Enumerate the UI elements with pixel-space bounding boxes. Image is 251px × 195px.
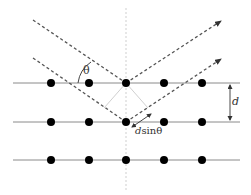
atom <box>122 79 130 87</box>
bragg-diagram <box>0 0 251 195</box>
atom <box>47 79 55 87</box>
d-spacing-label: d <box>232 95 239 108</box>
atom <box>122 156 130 164</box>
atom <box>122 118 130 126</box>
construction-line-right <box>126 83 148 108</box>
incident-ray-lower <box>33 58 126 122</box>
atom <box>160 79 168 87</box>
atom <box>47 118 55 126</box>
theta-label: θ <box>83 64 90 77</box>
atom <box>198 118 206 126</box>
dsintheta-label: dsinθ <box>135 125 162 136</box>
atom <box>198 79 206 87</box>
atom <box>85 79 93 87</box>
reflected-ray-lower <box>126 59 221 122</box>
construction-line-left <box>104 83 126 108</box>
incident-ray-upper <box>33 20 126 83</box>
atom <box>160 156 168 164</box>
atom <box>198 156 206 164</box>
reflected-ray-upper <box>126 21 221 83</box>
atom <box>47 156 55 164</box>
atom <box>85 156 93 164</box>
atom <box>85 118 93 126</box>
dsintheta-label-sin: sinθ <box>141 125 162 136</box>
